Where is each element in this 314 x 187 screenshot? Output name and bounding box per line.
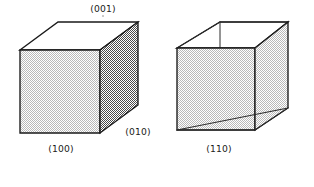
cube-right: (110) <box>177 22 288 154</box>
face-label-110: (110) <box>206 143 231 154</box>
figure-container: (001) (100) (010) (110) <box>0 0 314 187</box>
face-label-001: (001) <box>90 3 115 14</box>
face-label-010: (010) <box>125 126 150 137</box>
left-front-face <box>20 50 100 133</box>
cube-left: (001) (100) (010) <box>20 3 151 154</box>
crystal-faces-figure: (001) (100) (010) (110) <box>0 0 314 187</box>
face-label-100: (100) <box>48 143 73 154</box>
right-left-face <box>177 48 255 130</box>
